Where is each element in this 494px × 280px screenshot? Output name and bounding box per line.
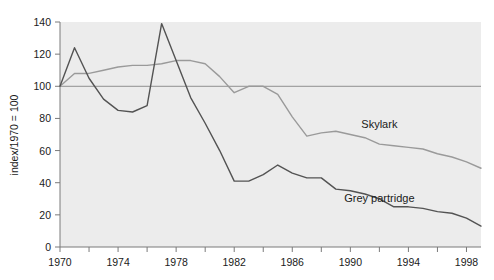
y-tick-label: 100	[33, 80, 51, 92]
x-tick-label: 1982	[223, 256, 247, 268]
y-tick-label: 120	[33, 48, 51, 60]
x-axis-ticks: 19701974197819821986199019941998	[48, 247, 478, 268]
y-tick-label: 80	[39, 112, 51, 124]
series-label-skylark: Skylark	[361, 118, 398, 130]
y-axis-title: index/1970 = 100	[8, 94, 20, 175]
x-tick-label: 1990	[339, 256, 363, 268]
x-tick-label: 1998	[455, 256, 479, 268]
y-tick-label: 140	[33, 16, 51, 28]
y-tick-label: 60	[39, 145, 51, 157]
x-tick-label: 1986	[281, 256, 305, 268]
x-tick-label: 1970	[48, 256, 72, 268]
chart-container: 020406080100120140 197019741978198219861…	[0, 0, 494, 280]
plot-background	[60, 22, 481, 247]
x-tick-label: 1974	[106, 256, 130, 268]
y-tick-label: 40	[39, 177, 51, 189]
y-tick-label: 0	[45, 241, 51, 253]
series-label-grey-partridge: Grey partridge	[344, 192, 414, 204]
line-chart: 020406080100120140 197019741978198219861…	[0, 0, 494, 280]
y-tick-label: 20	[39, 209, 51, 221]
y-axis-ticks: 020406080100120140	[33, 16, 60, 253]
x-tick-label: 1978	[164, 256, 188, 268]
x-tick-label: 1994	[397, 256, 421, 268]
